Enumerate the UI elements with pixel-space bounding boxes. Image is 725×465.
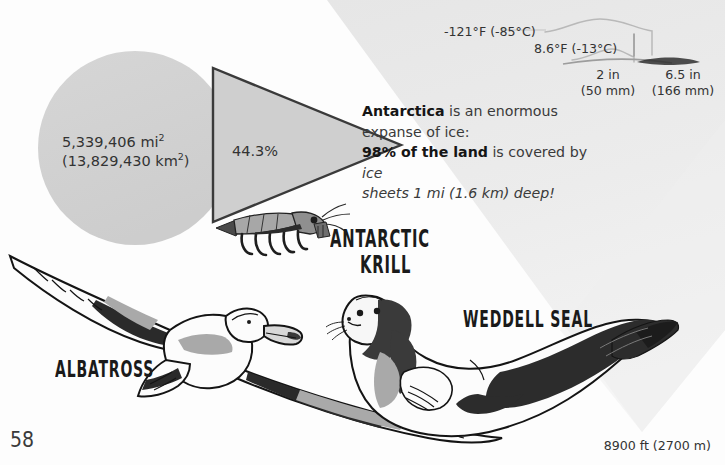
blurb-line4-italic: sheets 1 mi (1.6 km) deep! (362, 185, 555, 201)
blurb-lead-bold: Antarctica (362, 103, 444, 119)
temperature-high-callout: 8.6°F (-13°C) (534, 41, 617, 56)
blurb-line2: expanse of ice: (362, 124, 470, 140)
area-imperial-value: 5,339,406 mi (62, 134, 159, 150)
label-weddell-seal: WEDDELL SEAL (463, 305, 593, 332)
snowfall-a-value: 2 in (596, 67, 620, 82)
area-statistic: 5,339,406 mi2 (13,829,430 km2) (62, 133, 237, 171)
snowfall-b-value: 6.5 in (665, 67, 701, 82)
blurb-lead-rest: is an enormous (444, 103, 557, 119)
snowfall-a-metric: (50 mm) (581, 83, 635, 98)
area-imperial-exponent: 2 (159, 132, 165, 143)
temperature-low-callout: -121°F (-85°C) (444, 24, 536, 39)
snowfall-callout-a: 2 in (50 mm) (578, 67, 638, 99)
snowfall-callout-b: 6.5 in (166 mm) (650, 67, 716, 99)
percent-label: 44.3% (232, 143, 278, 159)
area-metric-close-paren: ) (184, 153, 190, 169)
blurb-line3-rest: is covered by (488, 144, 587, 160)
antarctica-description: Antarctica is an enormous expanse of ice… (362, 101, 592, 204)
label-antarctic-krill-line2: KRILL (360, 250, 411, 279)
blurb-line3-italic: ice (362, 165, 382, 181)
snowfall-b-metric: (166 mm) (652, 83, 714, 98)
infographic-page: 5,339,406 mi2 (13,829,430 km2) 44.3% Ant… (0, 0, 725, 465)
label-albatross: ALBATROSS (55, 355, 154, 382)
page-number: 58 (10, 428, 34, 452)
elevation-label: 8900 ft (2700 m) (604, 438, 711, 453)
blurb-line3-bold: 98% of the land (362, 144, 488, 160)
area-metric-value: (13,829,430 km (62, 153, 178, 169)
label-antarctic-krill-line1: ANTARCTIC (330, 224, 430, 253)
